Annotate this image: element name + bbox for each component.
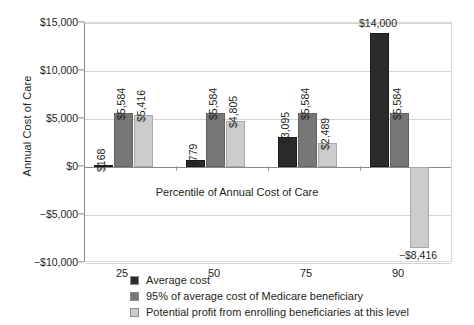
- bar-value-label: $168: [95, 149, 107, 172]
- y-tick-label: $15,000: [8, 16, 78, 28]
- bar-25-series-1: [114, 113, 133, 167]
- bar-value-label: $2,489: [319, 118, 331, 150]
- y-tick-label: $10,000: [8, 64, 78, 76]
- legend-item-0: Average cost: [130, 272, 409, 288]
- gridline: [85, 263, 451, 264]
- bar-value-label: $5,584: [299, 88, 311, 120]
- y-tick-mark: [78, 213, 84, 214]
- gridline: [85, 71, 451, 72]
- plot-area: [84, 22, 452, 262]
- y-tick-mark: [78, 165, 84, 166]
- bar-75-series-1: [298, 113, 317, 167]
- bar-value-label: $779: [187, 143, 199, 166]
- bar-value-label: $5,584: [115, 88, 127, 120]
- bar-90-series-1: [390, 113, 409, 167]
- legend-swatch-icon: [130, 276, 139, 285]
- legend-swatch-icon: [130, 292, 139, 301]
- x-tick-mark: [176, 166, 177, 171]
- bar-value-label: −$8,416: [399, 249, 437, 261]
- bar-50-series-1: [206, 113, 225, 167]
- bar-value-label: $3,095: [279, 112, 291, 144]
- legend-swatch-icon: [130, 308, 139, 317]
- bar-value-label: $14,000: [359, 17, 397, 29]
- legend-label: 95% of average cost of Medicare benefici…: [146, 290, 363, 303]
- y-tick-label: $5,000: [8, 112, 78, 124]
- y-tick-mark: [78, 261, 84, 262]
- y-tick-mark: [78, 69, 84, 70]
- chart-figure: Annual Cost of Care $15,000$10,000$5,000…: [0, 0, 474, 325]
- legend-item-1: 95% of average cost of Medicare benefici…: [130, 288, 409, 304]
- x-tick-label-25: 25: [116, 267, 128, 279]
- bar-25-series-2: [134, 115, 153, 167]
- chart-legend: Average cost95% of average cost of Medic…: [130, 272, 409, 320]
- gridline: [85, 215, 451, 216]
- y-tick-label: −$10,000: [8, 256, 78, 268]
- y-tick-mark: [78, 21, 84, 22]
- x-axis-title: Percentile of Annual Cost of Care: [0, 186, 474, 198]
- bar-value-label: $5,584: [391, 88, 403, 120]
- bar-value-label: $4,805: [227, 96, 239, 128]
- y-tick-label: $0: [8, 160, 78, 172]
- bar-value-label: $5,416: [135, 90, 147, 122]
- bar-90-series-2: [410, 167, 429, 248]
- bar-90-series-0: [370, 33, 389, 167]
- x-tick-mark: [360, 166, 361, 171]
- legend-label: Average cost: [146, 274, 210, 287]
- y-tick-mark: [78, 117, 84, 118]
- legend-label: Potential profit from enrolling benefici…: [146, 306, 409, 319]
- legend-item-2: Potential profit from enrolling benefici…: [130, 304, 409, 320]
- y-tick-label: −$5,000: [8, 208, 78, 220]
- x-tick-mark: [268, 166, 269, 171]
- bar-value-label: $5,584: [207, 88, 219, 120]
